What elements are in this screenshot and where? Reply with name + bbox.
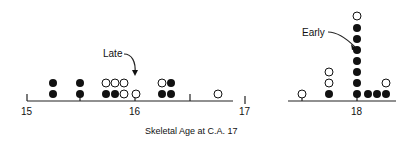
dots bbox=[49, 12, 390, 98]
late-annotation: Late bbox=[103, 48, 122, 59]
tick-15: 15 bbox=[21, 106, 32, 117]
tick-18: 18 bbox=[351, 106, 362, 117]
early-annotation: Early bbox=[302, 27, 325, 38]
tick-16: 16 bbox=[129, 106, 140, 117]
x-axis-label: Skeletal Age at C.A. 17 bbox=[145, 126, 238, 136]
tick-17: 17 bbox=[239, 106, 250, 117]
dot-plot bbox=[0, 0, 412, 147]
